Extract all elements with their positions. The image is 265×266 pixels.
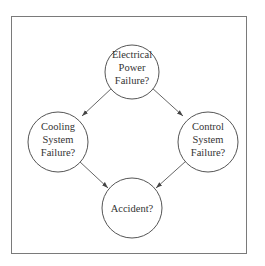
svg-text:Electrical: Electrical	[112, 49, 152, 60]
edge-control-to-accident	[156, 161, 186, 188]
edge-cooling-to-accident	[79, 161, 108, 188]
node-electrical-power-failure: Electrical Power Failure?	[105, 45, 159, 99]
node-control-system-failure: Control System Failure?	[178, 112, 238, 172]
node-accident: Accident?	[102, 178, 162, 238]
edge-power-to-control	[151, 87, 183, 116]
edge-power-to-cooling	[82, 87, 113, 116]
svg-text:Control: Control	[192, 121, 224, 132]
svg-text:System: System	[43, 134, 74, 145]
svg-text:Power: Power	[119, 62, 146, 73]
svg-text:Cooling: Cooling	[41, 121, 76, 132]
diagram-canvas: Electrical Power Failure? Cooling System…	[0, 0, 265, 266]
svg-text:Failure?: Failure?	[191, 147, 226, 158]
svg-text:Failure?: Failure?	[41, 147, 76, 158]
svg-text:Accident?: Accident?	[111, 203, 154, 214]
svg-text:Failure?: Failure?	[115, 75, 150, 86]
node-cooling-system-failure: Cooling System Failure?	[28, 112, 88, 172]
svg-text:System: System	[193, 134, 224, 145]
